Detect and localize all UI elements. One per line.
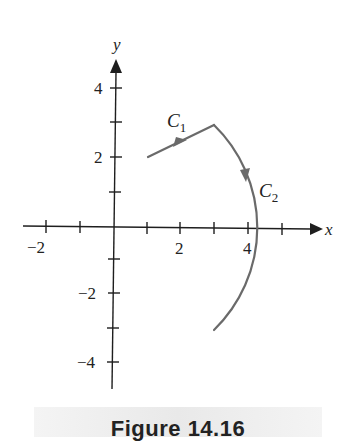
x-tick-label-4: 4 (243, 239, 252, 258)
x-axis (23, 226, 312, 229)
x-axis-label: x (324, 220, 333, 239)
y-axis-arrow-icon (110, 59, 122, 73)
c1-label: C1 (167, 110, 186, 135)
figure-caption-band: Figure 14.16 (34, 407, 322, 437)
figure-caption: Figure 14.16 (34, 416, 322, 442)
y-axis-label: y (111, 35, 121, 54)
x-tick-label-neg2: −2 (27, 238, 45, 257)
y-tick-label-neg4: −4 (77, 353, 96, 372)
y-axis (112, 72, 116, 389)
x-tick-label-2: 2 (175, 239, 184, 258)
y-tick-label-neg2: −2 (78, 284, 96, 303)
y-tick-label-4: 4 (94, 79, 103, 98)
x-axis-arrow-icon (310, 223, 323, 235)
c2-label: C2 (259, 180, 278, 205)
y-tick-label-2: 2 (94, 148, 103, 167)
